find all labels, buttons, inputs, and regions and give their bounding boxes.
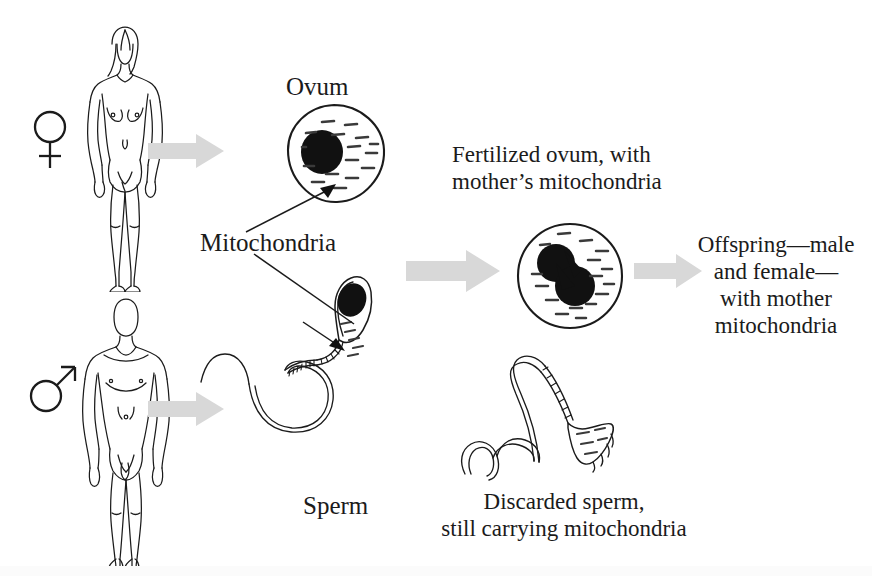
discarded-sperm-cell (455, 350, 680, 490)
offspring-caption-line4: mitochondria (686, 313, 866, 340)
offspring-caption-line3: with mother (686, 286, 866, 313)
fertilized-ovum-caption-line2: mother’s mitochondria (452, 169, 662, 196)
offspring-caption: Offspring—male and female— with mother m… (686, 232, 866, 340)
leader-line-sperm-mitochondria (250, 250, 360, 330)
arrow-female-to-ovum (146, 132, 226, 170)
male-body-outline (60, 295, 190, 570)
leader-line-ovum-mitochondria (240, 176, 350, 236)
arrow-to-fertilized-ovum (404, 248, 502, 294)
ovum-label: Ovum (286, 72, 349, 101)
offspring-caption-line2: and female— (686, 259, 866, 286)
fertilized-ovum-caption-line1: Fertilized ovum, with (452, 142, 662, 169)
diagram-canvas: Ovum Mitochondria Sperm Fertilized ovum,… (0, 0, 872, 576)
page-edge-artifact (0, 566, 872, 576)
discarded-sperm-caption-line1: Discarded sperm, (435, 489, 693, 516)
fertilized-ovum-caption: Fertilized ovum, with mother’s mitochond… (452, 142, 662, 196)
sperm-label: Sperm (303, 491, 368, 520)
fertilized-ovum-cell (512, 218, 628, 334)
mitochondria-label: Mitochondria (200, 228, 336, 257)
discarded-sperm-caption: Discarded sperm, still carrying mitochon… (435, 489, 693, 543)
discarded-sperm-caption-line2: still carrying mitochondria (435, 516, 693, 543)
offspring-caption-line1: Offspring—male (686, 232, 866, 259)
